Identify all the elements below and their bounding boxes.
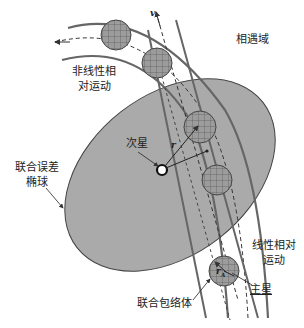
label-secondary-star: 次星 [126, 136, 148, 151]
label-line: 对运动 [72, 79, 116, 94]
sphere-2 [142, 48, 172, 78]
sphere-1 [101, 20, 131, 50]
sphere-4 [202, 165, 232, 195]
label-joint-error-ellipsoid: 联合误差 椭球 [15, 160, 59, 190]
label-line: 联合误差 [15, 160, 59, 175]
label-line: 非线性相 [72, 64, 116, 79]
label-linear-motion: 线性相对 运动 [252, 238, 296, 268]
label-nonlinear-motion: 非线性相 对运动 [72, 64, 116, 94]
label-line: 线性相对 [252, 238, 296, 253]
joint-error-ellipsoid [28, 39, 304, 310]
label-line: 运动 [252, 253, 296, 268]
radius-sub: A [221, 271, 226, 278]
label-primary-star: 主星 [250, 282, 272, 297]
label-joint-envelope: 联合包络体 [137, 296, 192, 311]
secondary-star [157, 165, 167, 175]
velocity-symbol: v [150, 8, 155, 18]
label-line: 椭球 [15, 175, 59, 190]
diagram-canvas: 非线性相 对运动 相遇域 次星 联合误差 椭球 线性相对 运动 主星 联合包络体… [0, 0, 304, 328]
label-encounter-domain: 相遇域 [236, 32, 269, 47]
distance-symbol: r [171, 140, 176, 150]
radius-symbol: rA [216, 266, 225, 278]
sphere-3 [184, 111, 216, 143]
